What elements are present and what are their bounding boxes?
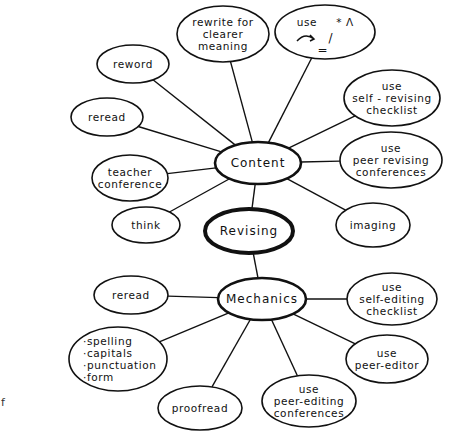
node-reword: reword bbox=[97, 45, 169, 83]
node-label-line: meaning bbox=[198, 40, 248, 52]
edge-content-to-symbols bbox=[268, 58, 311, 143]
node-think: think bbox=[112, 207, 180, 243]
node-label-line: peer-editor bbox=[355, 359, 420, 371]
edge-mechanics-to-checklist-items bbox=[159, 313, 229, 342]
edge-content-to-imaging bbox=[287, 179, 346, 211]
node-label-line: rewrite for bbox=[192, 16, 253, 28]
node-label-line: self-editing bbox=[359, 293, 424, 305]
node-proofread: proofread bbox=[158, 386, 242, 430]
node-label-line: Content bbox=[231, 156, 286, 170]
edge-content-to-rewrite bbox=[230, 62, 252, 143]
node-label-line: checklist bbox=[366, 104, 418, 116]
node-label-line: use bbox=[297, 16, 317, 28]
node-teacher-conference: teacherconference bbox=[92, 155, 168, 201]
node-rewrite: rewrite forclearermeaning bbox=[177, 6, 269, 62]
node-reread-content: reread bbox=[71, 98, 143, 136]
node-label-line: Revising bbox=[220, 224, 278, 238]
node-label-line: use bbox=[299, 383, 319, 395]
node-label-line: teacher bbox=[108, 166, 152, 178]
node-label-line: conferences bbox=[274, 407, 345, 419]
edge-content-to-think bbox=[169, 179, 229, 212]
node-label-line: ·capitals bbox=[83, 347, 132, 359]
node-self-revising: useself - revisingchecklist bbox=[344, 70, 440, 126]
node-label-line: reread bbox=[88, 111, 126, 123]
node-label-line: proofread bbox=[172, 402, 228, 414]
node-label-line: Mechanics bbox=[226, 292, 298, 306]
edge-revising-to-mechanics bbox=[253, 253, 258, 278]
node-label-line: use bbox=[381, 142, 401, 154]
node-label-line: peer revising bbox=[353, 154, 429, 166]
node-content: Content bbox=[215, 142, 301, 184]
node-peer-editor: usepeer-editor bbox=[346, 335, 428, 383]
edge-content-to-reread-content bbox=[138, 126, 221, 151]
node-revising: Revising bbox=[205, 209, 293, 253]
node-self-editing: useself-editingchecklist bbox=[347, 273, 437, 325]
edge-content-to-teacher-conference bbox=[167, 168, 216, 174]
edge-mechanics-to-peer-editing bbox=[271, 320, 297, 376]
node-label-line: reread bbox=[112, 289, 150, 301]
node-label-line: use bbox=[382, 80, 402, 92]
node-label-line: ·punctuation bbox=[83, 359, 157, 371]
node-imaging: imaging bbox=[336, 203, 410, 247]
node-label-line: ·spelling bbox=[83, 335, 132, 347]
edge-content-to-peer-revising bbox=[301, 161, 340, 162]
edge-mechanics-to-proofread bbox=[212, 319, 250, 387]
equals-symbol: = bbox=[317, 43, 328, 57]
edge-revising-to-content bbox=[252, 184, 255, 209]
node-label-line: imaging bbox=[350, 219, 397, 231]
node-label-line: clearer bbox=[203, 28, 244, 40]
node-label-line: use bbox=[377, 347, 397, 359]
revising-mind-map: RevisingContentMechanicsrewrite forclear… bbox=[0, 0, 452, 440]
node-label-line: self - revising bbox=[352, 92, 431, 104]
node-label-line: think bbox=[131, 219, 161, 231]
node-label-line: peer-editing bbox=[274, 395, 345, 407]
edge-mechanics-to-reread-mechanics bbox=[168, 296, 218, 298]
node-label-line: reword bbox=[113, 58, 153, 70]
stray-glyph: f bbox=[1, 396, 6, 409]
node-label-line: ·form bbox=[83, 371, 114, 383]
node-reread-mechanics: reread bbox=[94, 276, 168, 314]
node-label-line: checklist bbox=[366, 305, 418, 317]
node-label-line: conference bbox=[98, 178, 162, 190]
edge-mechanics-to-peer-editor bbox=[293, 314, 355, 344]
node-mechanics: Mechanics bbox=[218, 278, 306, 320]
slash-symbol: / bbox=[328, 31, 333, 45]
node-checklist-items: ·spelling·capitals·punctuation·form bbox=[69, 327, 167, 391]
node-peer-editing: usepeer-editingconferences bbox=[262, 375, 356, 427]
node-symbols: use* Λ/= bbox=[275, 5, 375, 59]
node-label-line: use bbox=[382, 281, 402, 293]
nodes: RevisingContentMechanicsrewrite forclear… bbox=[69, 5, 442, 430]
node-peer-revising: usepeer revisingconferences bbox=[340, 132, 442, 188]
node-label-line: conferences bbox=[356, 166, 427, 178]
edge-content-to-self-revising bbox=[289, 116, 356, 148]
asterisk-caret-symbols: * Λ bbox=[336, 16, 354, 28]
